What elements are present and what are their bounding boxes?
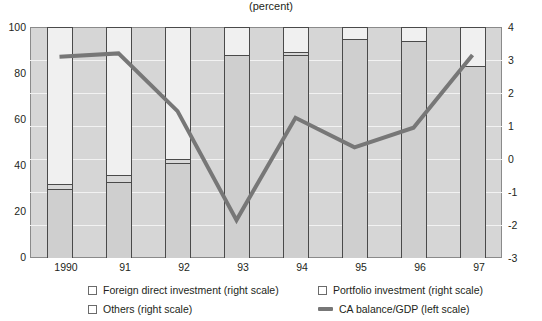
y-axis-left-tick-60: 60 <box>0 113 26 125</box>
x-axis-tick-92: 92 <box>157 261 211 273</box>
legend-label-ca-balance: CA balance/GDP (left scale) <box>339 303 470 315</box>
y-axis-right-tick-3: 3 <box>508 54 532 66</box>
plot-area <box>30 27 502 258</box>
y-axis-right-tick-neg1: -1 <box>508 186 532 198</box>
y-axis-left-tick-100: 100 <box>0 21 26 33</box>
chart-root: (percent) 100 80 60 40 20 0 4 3 2 1 0 -1… <box>0 0 542 321</box>
line-swatch-icon <box>318 307 333 311</box>
x-axis-tick-1990: 1990 <box>39 261 93 273</box>
square-icon <box>88 305 97 314</box>
legend-item-others: Others (right scale) <box>88 302 192 315</box>
y-axis-right-tick-0: 0 <box>508 153 532 165</box>
chart-legend: Foreign direct investment (right scale) … <box>0 283 542 321</box>
chart-title: (percent) <box>0 0 542 12</box>
x-axis-tick-95: 95 <box>334 261 388 273</box>
ca-balance-line <box>60 53 473 220</box>
x-axis-tick-96: 96 <box>393 261 447 273</box>
x-axis-tick-94: 94 <box>275 261 329 273</box>
square-icon <box>88 286 97 295</box>
y-axis-right-tick-1: 1 <box>508 120 532 132</box>
legend-label-others: Others (right scale) <box>103 303 192 315</box>
square-icon <box>318 286 327 295</box>
y-axis-right-tick-neg3: -3 <box>508 252 532 264</box>
x-axis-tick-93: 93 <box>216 261 270 273</box>
legend-item-ca-balance: CA balance/GDP (left scale) <box>318 302 470 315</box>
x-axis-tick-91: 91 <box>98 261 152 273</box>
legend-label-portfolio: Portfolio investment (right scale) <box>333 284 483 296</box>
y-axis-left-tick-40: 40 <box>0 159 26 171</box>
y-axis-left-tick-0: 0 <box>0 251 26 263</box>
legend-item-portfolio: Portfolio investment (right scale) <box>318 283 483 296</box>
x-axis-tick-97: 97 <box>452 261 506 273</box>
ca-balance-line-layer <box>30 27 502 258</box>
y-axis-left-tick-20: 20 <box>0 205 26 217</box>
y-axis-left-tick-80: 80 <box>0 67 26 79</box>
y-axis-right-tick-neg2: -2 <box>508 219 532 231</box>
legend-item-fdi: Foreign direct investment (right scale) <box>88 283 279 296</box>
legend-label-fdi: Foreign direct investment (right scale) <box>103 284 279 296</box>
y-axis-right-tick-2: 2 <box>508 87 532 99</box>
y-axis-right-tick-4: 4 <box>508 21 532 33</box>
